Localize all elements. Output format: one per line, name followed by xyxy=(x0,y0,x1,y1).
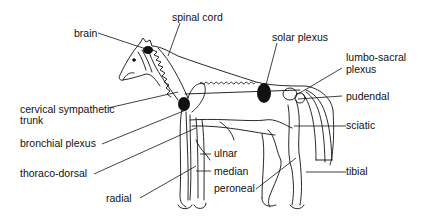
label-peroneal: peroneal xyxy=(214,183,255,194)
spinal-column xyxy=(153,50,171,97)
label-solar-plexus: solar plexus xyxy=(272,32,328,43)
label-radial: radial xyxy=(106,193,132,204)
label-tibial: tibial xyxy=(346,166,368,177)
brain-ganglion xyxy=(143,46,153,54)
leader-peroneal xyxy=(256,158,296,189)
solar-plexus-ganglion xyxy=(257,83,271,103)
label-bronchial-plexus: bronchial plexus xyxy=(20,138,96,149)
leader-cervical xyxy=(108,92,178,108)
leader-bronchial xyxy=(102,110,186,144)
label-sciatic: sciatic xyxy=(346,120,375,131)
label-cervical-sympathetic-2: trunk xyxy=(20,115,43,126)
label-lumbo-sacral-2: plexus xyxy=(346,64,376,75)
label-median: median xyxy=(214,166,248,177)
horse-head-outline xyxy=(140,38,334,165)
leader-radial xyxy=(140,166,196,198)
leader-brain xyxy=(98,33,146,49)
label-spinal-cord: spinal cord xyxy=(172,12,223,23)
label-brain: brain xyxy=(74,28,97,39)
label-thoraco-dorsal: thoraco-dorsal xyxy=(20,168,87,179)
leader-spinal-cord xyxy=(168,23,180,56)
leader-lumbo-sacral xyxy=(298,68,342,94)
label-lumbo-sacral-1: lumbo-sacral xyxy=(346,52,406,63)
label-ulnar: ulnar xyxy=(214,148,237,159)
label-pudendal: pudendal xyxy=(346,91,389,102)
cervical-ganglion xyxy=(178,97,190,111)
leader-solar-plexus xyxy=(266,43,277,85)
